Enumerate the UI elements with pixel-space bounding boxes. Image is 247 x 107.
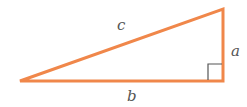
hypotenuse-label: c bbox=[117, 16, 126, 34]
right-angle-marker bbox=[208, 64, 222, 80]
horizontal-leg-label: b bbox=[127, 87, 137, 105]
right-triangle-diagram: c a b bbox=[0, 0, 247, 107]
vertical-leg-label: a bbox=[231, 42, 240, 60]
